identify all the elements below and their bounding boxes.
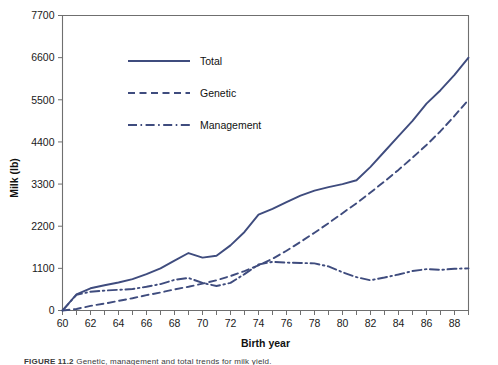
x-tick-label: 76 <box>281 317 293 329</box>
y-tick-label: 0 <box>49 304 55 316</box>
series-line-genetic <box>63 100 469 311</box>
series-line-management <box>63 262 469 311</box>
x-axis-ticks: 606264666870727476788082848688 <box>57 311 469 329</box>
x-tick-label: 74 <box>253 317 265 329</box>
figure-caption-number: FIGURE 11.2 <box>24 357 74 365</box>
y-axis-title: Milk (lb) <box>8 158 20 198</box>
x-tick-label: 62 <box>85 317 97 329</box>
y-tick-label: 4400 <box>31 136 55 148</box>
y-tick-label: 5500 <box>31 94 55 106</box>
y-tick-label: 2200 <box>31 220 55 232</box>
x-tick-label: 66 <box>141 317 153 329</box>
x-tick-label: 60 <box>57 317 69 329</box>
y-tick-label: 6600 <box>31 51 55 63</box>
data-series-group <box>63 58 469 311</box>
y-tick-label: 7700 <box>31 9 55 21</box>
x-tick-label: 68 <box>169 317 181 329</box>
y-tick-label: 3300 <box>31 178 55 190</box>
legend-label-genetic: Genetic <box>200 87 236 99</box>
x-tick-label: 78 <box>309 317 321 329</box>
legend-label-total: Total <box>200 55 222 67</box>
figure-caption-text: Genetic, management and total trends for… <box>76 357 271 365</box>
x-tick-label: 80 <box>337 317 349 329</box>
x-tick-label: 70 <box>197 317 209 329</box>
x-tick-label: 82 <box>365 317 377 329</box>
y-tick-label: 1100 <box>32 262 55 274</box>
figure-caption: FIGURE 11.2 Genetic, management and tota… <box>24 356 272 365</box>
x-tick-label: 72 <box>225 317 237 329</box>
chart-legend: TotalGeneticManagement <box>128 55 261 131</box>
x-tick-label: 84 <box>393 317 405 329</box>
legend-label-management: Management <box>200 119 261 131</box>
x-tick-label: 88 <box>449 317 461 329</box>
y-axis-ticks: 01100220033004400550066007700 <box>31 9 62 316</box>
x-tick-label: 86 <box>421 317 433 329</box>
x-axis-title: Birth year <box>241 337 290 349</box>
x-tick-label: 64 <box>113 317 125 329</box>
